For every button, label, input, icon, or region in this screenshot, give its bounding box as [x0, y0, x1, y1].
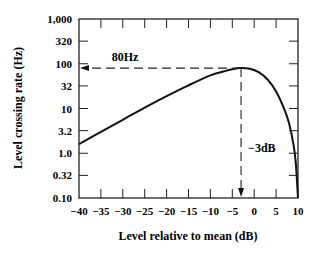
x-tick-label: −40: [70, 205, 88, 217]
y-tick-label: 320: [56, 35, 73, 47]
level-crossing-chart: 0.100.321.03.210321003201,000 −40−35−30−…: [0, 0, 316, 255]
y-tick-label: 1.0: [58, 147, 72, 159]
x-tick-label: −25: [136, 205, 154, 217]
y-axis-label: Level crossing rate (Hz): [11, 47, 25, 169]
x-axis-ticks: −40−35−30−25−20−15−10−50510: [70, 19, 304, 217]
x-tick-label: 0: [251, 205, 257, 217]
plot-frame: [79, 19, 298, 198]
y-tick-label: 100: [56, 58, 73, 70]
x-tick-label: 10: [293, 205, 305, 217]
arrow-left-icon: [80, 65, 89, 71]
y-tick-label: 10: [61, 103, 73, 115]
y-tick-label: 3.2: [58, 125, 72, 137]
x-tick-label: −35: [92, 205, 110, 217]
y-tick-label: 0.32: [53, 169, 73, 181]
peak-level-annotation: −3dB: [248, 141, 276, 155]
x-tick-label: −15: [180, 205, 198, 217]
y-axis-ticks: 0.100.321.03.210321003201,000: [47, 13, 298, 204]
data-curve: [79, 68, 298, 198]
arrow-down-icon: [238, 188, 244, 197]
peak-rate-annotation: 80Hz: [112, 50, 139, 64]
y-tick-label: 0.10: [53, 192, 73, 204]
x-tick-label: −20: [158, 205, 176, 217]
y-tick-label: 32: [61, 80, 73, 92]
x-tick-label: 5: [273, 205, 279, 217]
x-tick-label: −5: [226, 205, 238, 217]
x-tick-label: −30: [114, 205, 132, 217]
annotations: 80Hz−3dB: [80, 50, 276, 197]
x-axis-label: Level relative to mean (dB): [118, 229, 257, 243]
x-tick-label: −10: [202, 205, 220, 217]
y-tick-label: 1,000: [47, 13, 72, 25]
